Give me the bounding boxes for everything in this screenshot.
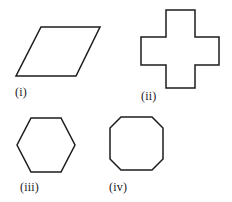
shape-label-i: (i) (15, 86, 27, 98)
shapes-canvas (0, 0, 232, 202)
geometry-figure: (i) (ii) (iii) (iv) (0, 0, 232, 202)
shape-label-iv: (iv) (109, 181, 127, 193)
hexagon-shape (17, 118, 75, 172)
octagon-shape (110, 117, 163, 170)
parallelogram-shape (16, 27, 100, 76)
cross-shape (141, 10, 219, 88)
shape-label-ii: (ii) (141, 90, 156, 102)
shape-label-iii: (iii) (20, 181, 39, 193)
